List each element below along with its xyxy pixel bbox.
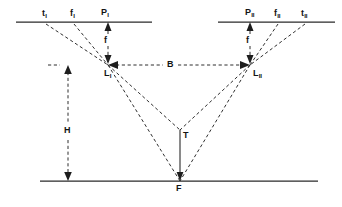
label-left-plate-t: tI [42, 9, 47, 18]
ray-right-lens-to-ground-point [180, 65, 250, 181]
label-left-plate-p: PI [101, 8, 109, 17]
label-lens-station-left: LI [104, 69, 111, 78]
label-tower: T [183, 131, 189, 140]
stereo-geometry-diagram: tI fI PI PII fII tII f f LI LII B H T F [0, 0, 342, 207]
focal-left-arrowhead-top [105, 22, 112, 31]
ray-left-f-to-lens [74, 24, 108, 65]
label-ground-point: F [176, 184, 182, 193]
label-right-plate-p: PII [245, 8, 254, 17]
label-left-plate-f: fI [70, 9, 75, 18]
ray-right-lens-to-tower-top [180, 65, 250, 130]
label-baseline: B [167, 60, 174, 69]
label-flying-height: H [64, 126, 71, 135]
height-arrowhead-bottom [64, 172, 72, 181]
label-right-plate-t: tII [301, 9, 307, 18]
label-focal-length-right: f [246, 36, 249, 45]
label-right-plate-f: fII [274, 9, 280, 18]
ray-right-t-to-lens [250, 24, 305, 65]
ray-left-t-to-lens [46, 24, 108, 65]
diagram-canvas [0, 0, 342, 207]
height-arrowhead-top [64, 65, 72, 74]
focal-right-arrowhead-top [247, 22, 254, 31]
ray-left-lens-to-ground-point [108, 65, 180, 181]
label-focal-length-left: f [104, 36, 107, 45]
ray-right-f-to-lens [250, 24, 278, 65]
ray-left-lens-to-tower-top [108, 65, 180, 130]
label-lens-station-right: LII [253, 69, 262, 78]
